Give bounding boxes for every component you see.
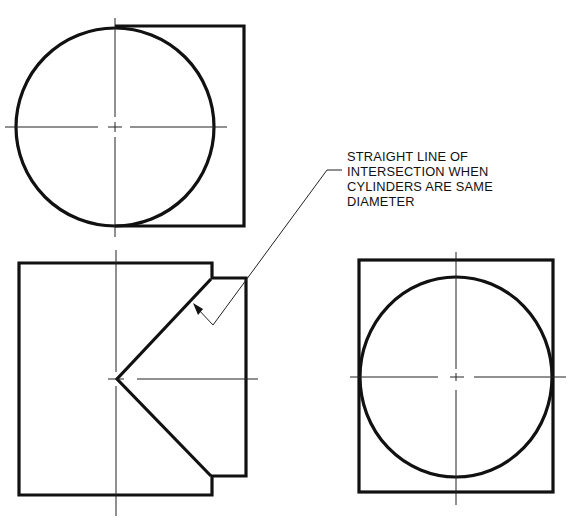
top-view-rectangle xyxy=(115,26,244,226)
note-line-4: DIAMETER xyxy=(347,194,493,209)
note-line-3: CYLINDERS ARE SAME xyxy=(347,179,493,194)
side-view xyxy=(350,252,566,505)
top-view-centerlines xyxy=(5,18,227,237)
note-line-2: INTERSECTION WHEN xyxy=(347,164,493,179)
technical-drawing xyxy=(0,0,569,520)
top-view xyxy=(5,18,244,237)
note-line-1: STRAIGHT LINE OF xyxy=(347,149,493,164)
front-view xyxy=(19,250,258,516)
side-view-centerlines xyxy=(350,252,566,505)
leader-arrow xyxy=(193,170,342,325)
annotation-note: STRAIGHT LINE OF INTERSECTION WHEN CYLIN… xyxy=(347,149,493,209)
drawing-canvas: STRAIGHT LINE OF INTERSECTION WHEN CYLIN… xyxy=(0,0,569,520)
